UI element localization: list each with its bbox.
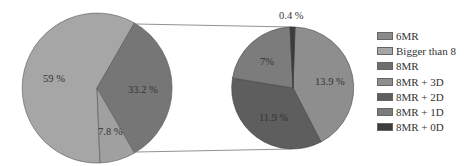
- legend-label: 8MR + 2D: [396, 91, 444, 103]
- legend-swatch: [377, 108, 393, 116]
- legend-swatch: [377, 93, 393, 101]
- legend-label: 8MR: [396, 60, 419, 72]
- legend-swatch: [377, 47, 393, 55]
- label-11-9: 11.9 %: [259, 112, 289, 123]
- label-13-9: 13.9 %: [315, 76, 345, 87]
- legend: 6MR Bigger than 8 8MR 8MR + 3D 8MR + 2D …: [377, 28, 456, 135]
- label-7: 7%: [260, 56, 274, 67]
- label-0-4: 0.4 %: [279, 10, 304, 21]
- legend-item-bigger-than-8: Bigger than 8: [377, 43, 456, 58]
- connector-line-bottom: [136, 149, 292, 152]
- label-7-8: 7.8 %: [98, 126, 123, 137]
- legend-item-6mr: 6MR: [377, 28, 456, 43]
- legend-item-8mr-0d: 8MR + 0D: [377, 120, 456, 135]
- legend-label: Bigger than 8: [396, 45, 456, 57]
- legend-item-8mr-3d: 8MR + 3D: [377, 74, 456, 89]
- legend-label: 8MR + 3D: [396, 76, 444, 88]
- legend-item-8mr-2d: 8MR + 2D: [377, 89, 456, 104]
- legend-swatch: [377, 123, 393, 131]
- legend-item-8mr: 8MR: [377, 59, 456, 74]
- secondary-pie: [232, 27, 354, 149]
- legend-swatch: [377, 62, 393, 70]
- label-33-2: 33.2 %: [128, 84, 158, 95]
- legend-swatch: [377, 32, 393, 40]
- legend-swatch: [377, 78, 393, 86]
- legend-label: 8MR + 0D: [396, 121, 444, 133]
- connector-line-top: [136, 24, 292, 27]
- legend-item-8mr-1d: 8MR + 1D: [377, 104, 456, 119]
- label-59: 59 %: [43, 73, 65, 84]
- legend-label: 8MR + 1D: [396, 106, 444, 118]
- legend-label: 6MR: [396, 30, 419, 42]
